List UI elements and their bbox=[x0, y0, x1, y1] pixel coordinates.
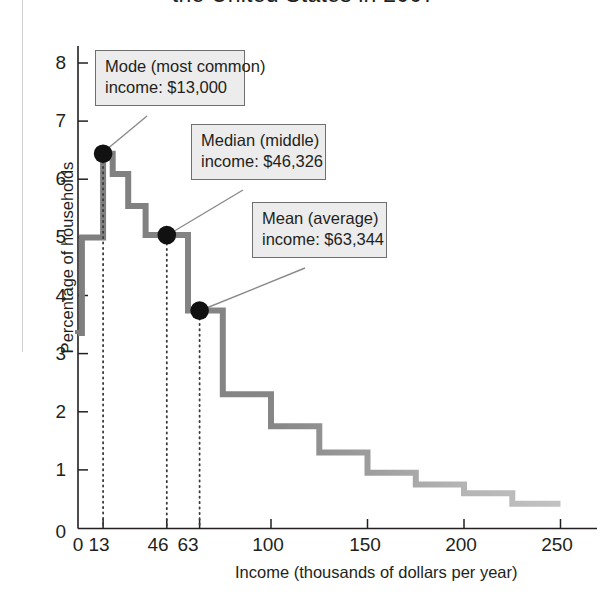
marker-dot-mode bbox=[94, 144, 113, 163]
x-tick-marks bbox=[103, 519, 560, 529]
leader-line-median bbox=[171, 190, 243, 233]
callout-median-line1: Median (middle) bbox=[201, 131, 319, 149]
callout-mean-line2: income: $63,344 bbox=[262, 229, 377, 250]
leader-line-mode bbox=[106, 116, 147, 150]
callout-median: Median (middle) income: $46,326 bbox=[191, 124, 326, 180]
callout-mode: Mode (most common) income: $13,000 bbox=[95, 50, 245, 106]
marker-dot-mean bbox=[190, 301, 209, 320]
plot-canvas bbox=[0, 0, 607, 606]
axis-lines bbox=[78, 46, 597, 529]
callout-mean: Mean (average) income: $63,344 bbox=[252, 202, 387, 258]
callout-mode-line1: Mode (most common) bbox=[105, 57, 265, 75]
marker-dot-median bbox=[158, 226, 177, 245]
callout-mode-line2: income: $13,000 bbox=[105, 77, 235, 98]
callout-mean-line1: Mean (average) bbox=[262, 209, 378, 227]
chart-figure: the United States in 2007 Percentage of … bbox=[0, 0, 607, 606]
marker-droplines bbox=[103, 156, 200, 527]
leader-line-mean bbox=[204, 268, 305, 309]
callout-median-line2: income: $46,326 bbox=[201, 151, 316, 172]
